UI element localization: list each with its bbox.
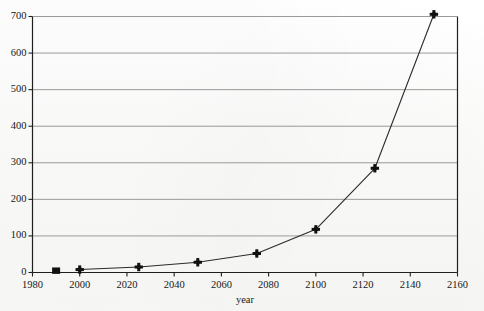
data-point-projection-2150 bbox=[430, 10, 438, 18]
x-tick-label-2000: 2000 bbox=[60, 280, 100, 291]
x-tick-label-2080: 2080 bbox=[249, 280, 289, 291]
tick-mark-group bbox=[29, 17, 458, 277]
x-tick-label-2020: 2020 bbox=[107, 280, 147, 291]
y-tick-label-700: 700 bbox=[1, 11, 27, 22]
marker-plus-center bbox=[77, 267, 82, 272]
data-point-projection-2050 bbox=[194, 258, 202, 266]
y-tick-label-600: 600 bbox=[1, 48, 27, 59]
x-tick-label-2120: 2120 bbox=[343, 280, 383, 291]
series-marker-group bbox=[52, 10, 438, 274]
y-tick-label-500: 500 bbox=[1, 84, 27, 95]
marker-plus-center bbox=[136, 265, 141, 270]
y-tick-label-0: 0 bbox=[1, 267, 27, 278]
marker-square bbox=[52, 267, 60, 273]
x-tick-label-1980: 1980 bbox=[13, 280, 53, 291]
x-tick-label-2160: 2160 bbox=[438, 280, 478, 291]
x-axis-title: year bbox=[205, 295, 285, 306]
gridline-group bbox=[33, 17, 458, 236]
data-point-projection-2075 bbox=[253, 249, 261, 257]
y-tick-label-400: 400 bbox=[1, 121, 27, 132]
x-tick-label-2040: 2040 bbox=[154, 280, 194, 291]
marker-plus-center bbox=[255, 251, 260, 256]
marker-plus-center bbox=[373, 166, 378, 171]
y-tick-label-100: 100 bbox=[1, 230, 27, 241]
y-tick-label-200: 200 bbox=[1, 194, 27, 205]
data-point-projection-2025 bbox=[135, 263, 143, 271]
axis-frame-group bbox=[33, 17, 458, 273]
x-tick-label-2100: 2100 bbox=[296, 280, 336, 291]
data-point-observed-1990 bbox=[52, 267, 60, 273]
chart-plot-area bbox=[0, 0, 484, 311]
marker-plus-center bbox=[195, 260, 200, 265]
chart-screenshot: 0100200300400500600700 19802000202020402… bbox=[0, 0, 484, 311]
marker-plus-center bbox=[432, 12, 437, 17]
y-tick-label-300: 300 bbox=[1, 157, 27, 168]
x-tick-label-2060: 2060 bbox=[201, 280, 241, 291]
marker-plus-center bbox=[314, 227, 319, 232]
x-tick-label-2140: 2140 bbox=[390, 280, 430, 291]
